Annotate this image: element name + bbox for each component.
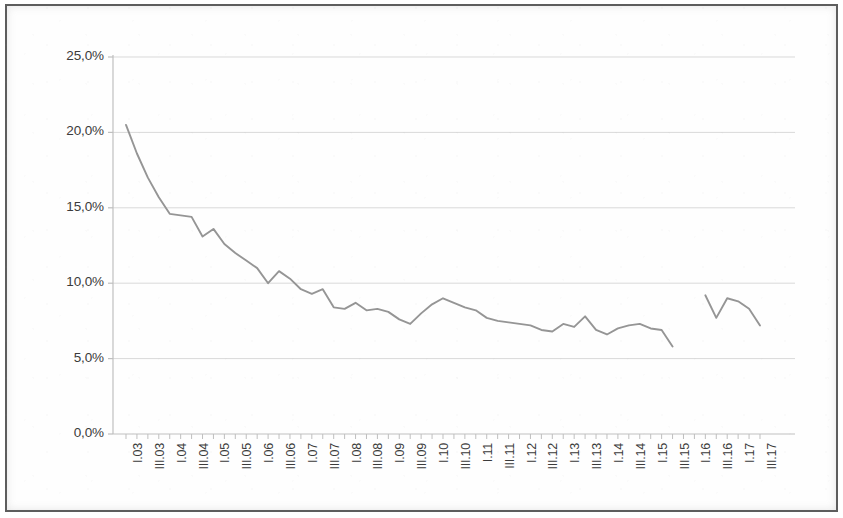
x-axis-tick-label: I.15 (656, 443, 670, 463)
x-axis-tick-label: III.05 (240, 443, 254, 470)
x-axis-tick-labels: I.03III.03I.04III.04I.05III.05I.06III.06… (0, 0, 843, 518)
x-axis-tick-label: III.09 (415, 443, 429, 470)
x-axis-tick-label: I.09 (393, 443, 407, 463)
x-axis-tick-label: III.16 (721, 443, 735, 470)
x-axis-tick-label: I.05 (218, 443, 232, 463)
x-axis-tick-label: III.13 (590, 443, 604, 470)
x-axis-tick-label: I.16 (699, 443, 713, 463)
x-axis-tick-label: I.08 (350, 443, 364, 463)
x-axis-tick-label: I.06 (262, 443, 276, 463)
x-axis-tick-label: III.14 (634, 443, 648, 470)
x-axis-tick-label: I.04 (175, 443, 189, 463)
x-axis-tick-label: III.12 (546, 443, 560, 470)
chart-page: 0,0%5,0%10,0%15,0%20,0%25,0% I.03III.03I… (0, 0, 843, 518)
x-axis-tick-label: I.13 (568, 443, 582, 463)
line-chart: 0,0%5,0%10,0%15,0%20,0%25,0% I.03III.03I… (0, 0, 843, 518)
x-axis-tick-label: III.04 (197, 443, 211, 470)
x-axis-tick-label: III.03 (153, 443, 167, 470)
x-axis-tick-label: III.17 (765, 443, 779, 470)
x-axis-tick-label: III.06 (284, 443, 298, 470)
x-axis-tick-label: I.10 (437, 443, 451, 463)
x-axis-tick-label: III.08 (371, 443, 385, 470)
x-axis-tick-label: I.07 (306, 443, 320, 463)
x-axis-tick-label: III.10 (459, 443, 473, 470)
x-axis-tick-label: III.11 (503, 443, 517, 469)
x-axis-tick-label: I.11 (481, 443, 495, 462)
x-axis-tick-label: I.03 (131, 443, 145, 463)
x-axis-tick-label: III.07 (328, 443, 342, 470)
x-axis-tick-label: I.12 (525, 443, 539, 463)
x-axis-tick-label: III.15 (678, 443, 692, 470)
x-axis-tick-label: I.14 (612, 443, 626, 463)
x-axis-tick-label: I.17 (743, 443, 757, 463)
